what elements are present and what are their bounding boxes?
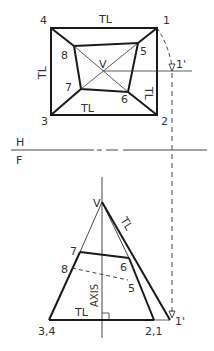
- label-tl-bottom: TL: [80, 102, 95, 115]
- label-tl-edge: TL: [117, 214, 136, 233]
- revolution-arc: [157, 28, 172, 66]
- edge-4-8: [51, 28, 74, 46]
- edge-1-5: [138, 28, 157, 43]
- label-axis: AXIS: [89, 284, 100, 307]
- label-2-1: 2,1: [145, 325, 163, 338]
- front-view: V TL 7 6 8 5 AXIS TL 3,4 2,1 1': [38, 177, 185, 338]
- label-8: 8: [61, 49, 68, 62]
- label-4: 4: [40, 14, 47, 27]
- true-length-edge: [102, 202, 170, 320]
- label-8-front: 8: [61, 263, 68, 276]
- label-1prime-top: 1': [176, 58, 186, 71]
- label-v-top: V: [99, 58, 107, 71]
- label-tl-left: TL: [36, 65, 49, 80]
- label-3-4: 3,4: [38, 325, 56, 338]
- projection-drawing: 4 TL 1 8 5 V 1' 7 6 TL 3 2 TL TL H F: [0, 0, 214, 351]
- label-7-front: 7: [70, 245, 77, 258]
- label-6-front: 6: [120, 261, 127, 274]
- label-3: 3: [41, 115, 48, 128]
- right-angle-icon: [102, 313, 109, 320]
- label-2: 2: [161, 115, 168, 128]
- label-1: 1: [163, 14, 170, 27]
- top-view: 4 TL 1 8 5 V 1' 7 6 TL 3 2 TL TL: [36, 13, 192, 128]
- label-tl-base: TL: [74, 306, 89, 319]
- label-5: 5: [140, 45, 147, 58]
- label-5-front: 5: [128, 282, 135, 295]
- label-v-front: V: [93, 197, 101, 210]
- label-6: 6: [121, 93, 128, 106]
- edge-7-6: [80, 252, 129, 258]
- label-1prime-front: 1': [175, 315, 185, 328]
- label-h: H: [16, 136, 24, 149]
- arrow-1prime-top-icon: [169, 64, 175, 71]
- label-tl-top: TL: [98, 13, 113, 26]
- label-tl-right: TL: [142, 86, 155, 101]
- fold-line: H F: [11, 136, 207, 167]
- label-7: 7: [65, 81, 72, 94]
- label-f: F: [16, 154, 22, 167]
